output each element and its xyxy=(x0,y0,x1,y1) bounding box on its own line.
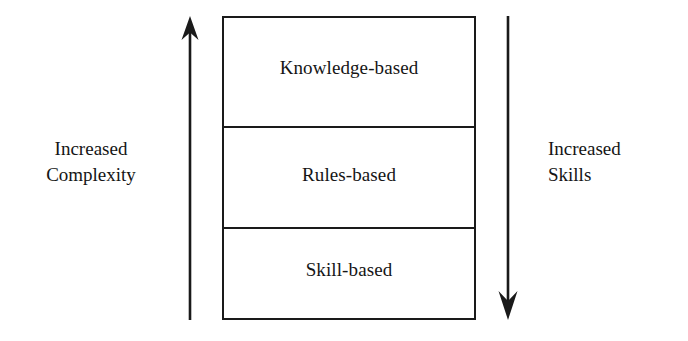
level-skill-based: Skill-based xyxy=(224,227,474,318)
right-axis-label-line2: Skills xyxy=(548,162,678,188)
arrow-up-icon xyxy=(172,10,208,325)
level-knowledge-based-label: Knowledge-based xyxy=(280,58,419,77)
left-axis-label: Increased Complexity xyxy=(16,136,166,188)
level-rules-based-label: Rules-based xyxy=(302,165,396,184)
left-axis-label-line1: Increased xyxy=(16,136,166,162)
right-axis-label-line1: Increased xyxy=(548,136,678,162)
level-skill-based-label: Skill-based xyxy=(306,260,393,279)
arrow-down-icon xyxy=(490,10,526,325)
level-knowledge-based: Knowledge-based xyxy=(224,18,474,126)
level-rules-based: Rules-based xyxy=(224,126,474,227)
right-axis-label: Increased Skills xyxy=(548,136,678,188)
skill-rule-knowledge-diagram: Increased Complexity Knowledge-based Rul… xyxy=(0,0,688,341)
hierarchy-box: Knowledge-based Rules-based Skill-based xyxy=(222,16,476,320)
left-axis-label-line2: Complexity xyxy=(16,162,166,188)
